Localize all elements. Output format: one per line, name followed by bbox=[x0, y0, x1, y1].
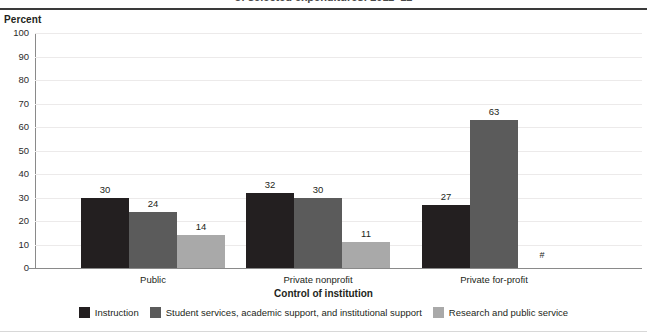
y-axis-tick-label: 20 bbox=[3, 215, 29, 226]
legend-item: Instruction bbox=[79, 307, 139, 318]
bar bbox=[294, 198, 342, 269]
x-axis-line bbox=[29, 268, 642, 269]
legend-label: Student services, academic support, and … bbox=[166, 307, 422, 318]
chart-figure: of selected expenditures: 2011–12 Percen… bbox=[0, 0, 647, 333]
y-axis-title: Percent bbox=[4, 14, 41, 25]
bar-value-label: 30 bbox=[294, 184, 342, 195]
chart-legend: InstructionStudent services, academic su… bbox=[0, 307, 647, 318]
title-divider-rule bbox=[0, 8, 647, 10]
bar bbox=[422, 205, 470, 268]
legend-item: Student services, academic support, and … bbox=[150, 307, 422, 318]
y-axis-tick-label: 10 bbox=[3, 239, 29, 250]
y-axis-tick-label: 0 bbox=[3, 262, 29, 273]
bar bbox=[470, 120, 518, 268]
chart-title: of selected expenditures: 2011–12 bbox=[0, 0, 647, 3]
gridline bbox=[35, 104, 642, 105]
bar-value-label: 27 bbox=[422, 191, 470, 202]
x-axis-group-label: Private nonprofit bbox=[228, 274, 408, 285]
x-axis-group-label: Private for-profit bbox=[404, 274, 584, 285]
y-axis-tick-label: 40 bbox=[3, 168, 29, 179]
gridline bbox=[35, 33, 642, 34]
gridline bbox=[35, 174, 642, 175]
bar bbox=[342, 242, 390, 268]
legend-label: Instruction bbox=[95, 307, 139, 318]
gridline bbox=[35, 151, 642, 152]
bottom-divider-rule bbox=[0, 331, 647, 332]
y-axis-tick-label: 30 bbox=[3, 192, 29, 203]
legend-item: Research and public service bbox=[433, 307, 568, 318]
y-axis-tick-label: 60 bbox=[3, 121, 29, 132]
suppressed-value-marker: # bbox=[518, 250, 566, 260]
bar-value-label: 14 bbox=[177, 221, 225, 232]
bar-value-label: 63 bbox=[470, 106, 518, 117]
bar bbox=[177, 235, 225, 268]
plot-area: 0102030405060708090100302414Public323011… bbox=[35, 33, 642, 268]
legend-swatch-icon bbox=[433, 307, 444, 318]
gridline bbox=[35, 57, 642, 58]
legend-label: Research and public service bbox=[449, 307, 568, 318]
legend-swatch-icon bbox=[150, 307, 161, 318]
bar-value-label: 32 bbox=[246, 179, 294, 190]
y-axis-tick-label: 80 bbox=[3, 74, 29, 85]
bar-value-label: 30 bbox=[81, 184, 129, 195]
bar bbox=[81, 198, 129, 269]
gridline bbox=[35, 80, 642, 81]
bar bbox=[129, 212, 177, 268]
x-axis-title: Control of institution bbox=[0, 288, 647, 299]
gridline bbox=[35, 127, 642, 128]
y-axis-tick-label: 70 bbox=[3, 98, 29, 109]
bar-value-label: 11 bbox=[342, 228, 390, 239]
y-axis-tick-label: 90 bbox=[3, 51, 29, 62]
legend-swatch-icon bbox=[79, 307, 90, 318]
y-axis-tick-label: 50 bbox=[3, 145, 29, 156]
bar-value-label: 24 bbox=[129, 198, 177, 209]
y-axis-tick-label: 100 bbox=[3, 27, 29, 38]
x-axis-group-label: Public bbox=[63, 274, 243, 285]
bar bbox=[246, 193, 294, 268]
